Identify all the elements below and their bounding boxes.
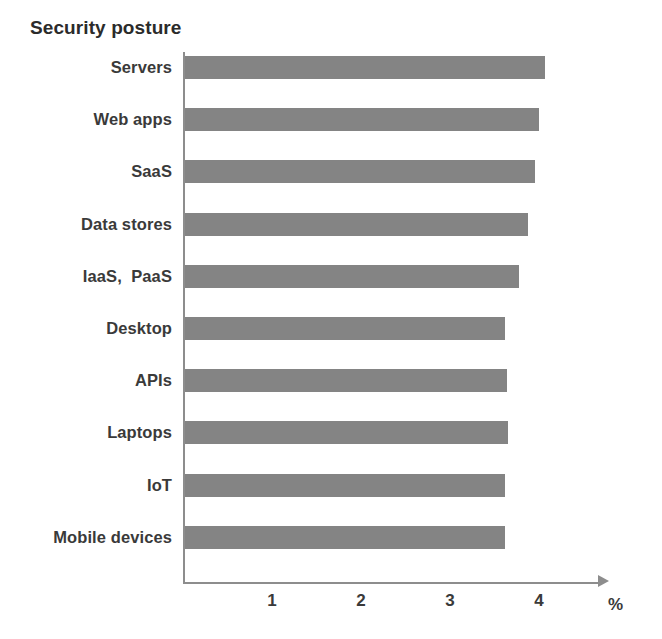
category-label: Servers bbox=[0, 58, 172, 77]
x-tick-label-1: 1 bbox=[252, 591, 292, 611]
bar bbox=[185, 56, 545, 79]
x-tick-label-3: 3 bbox=[430, 591, 470, 611]
category-label: APIs bbox=[0, 371, 172, 390]
bar bbox=[185, 317, 505, 340]
plot-area: % 1234ServersWeb appsSaaSData storesIaaS… bbox=[0, 0, 662, 639]
x-tick-label-2: 2 bbox=[341, 591, 381, 611]
x-axis-line bbox=[183, 582, 600, 584]
security-posture-chart: Security posture % 1234ServersWeb appsSa… bbox=[0, 0, 662, 639]
category-label: Web apps bbox=[0, 110, 172, 129]
bar bbox=[185, 108, 539, 131]
bar bbox=[185, 369, 507, 392]
bar bbox=[185, 526, 505, 549]
category-label: Data stores bbox=[0, 215, 172, 234]
bar bbox=[185, 421, 508, 444]
x-axis-unit-label: % bbox=[608, 595, 623, 615]
category-label: IoT bbox=[0, 476, 172, 495]
bar bbox=[185, 474, 505, 497]
category-label: IaaS, PaaS bbox=[0, 267, 172, 286]
category-label: Mobile devices bbox=[0, 528, 172, 547]
category-label: Desktop bbox=[0, 319, 172, 338]
bar bbox=[185, 160, 535, 183]
category-label: SaaS bbox=[0, 162, 172, 181]
x-tick-label-4: 4 bbox=[519, 591, 559, 611]
category-label: Laptops bbox=[0, 423, 172, 442]
bar bbox=[185, 265, 519, 288]
bar bbox=[185, 213, 528, 236]
x-axis-arrow-icon bbox=[598, 575, 609, 587]
